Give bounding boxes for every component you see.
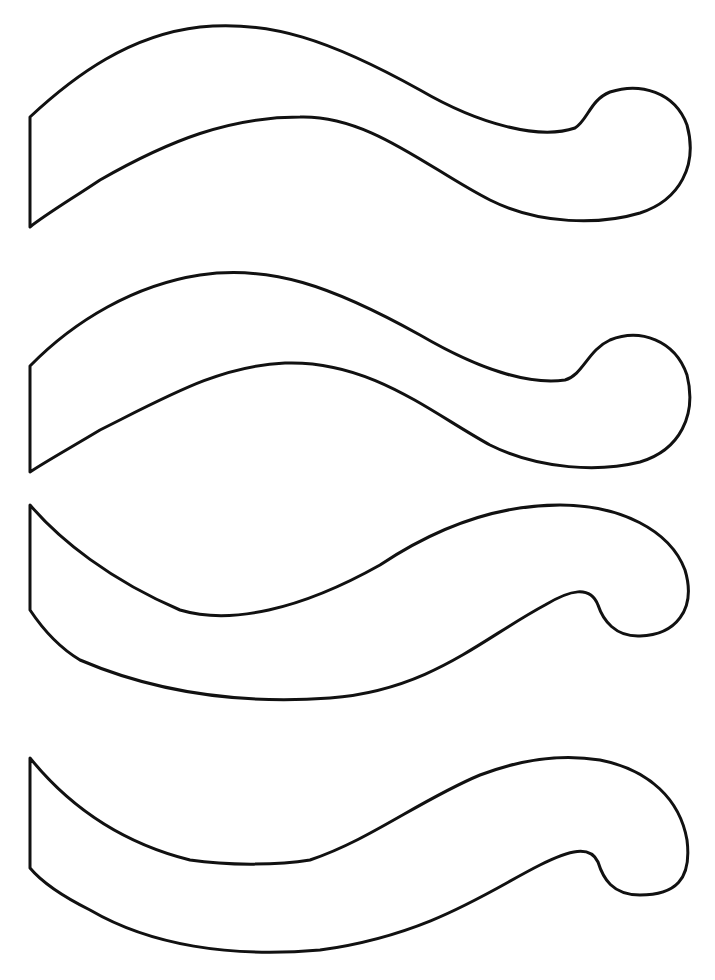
wave-shape-4 <box>30 757 688 952</box>
wave-shape-3 <box>30 505 688 700</box>
template-canvas <box>0 0 715 980</box>
wave-shape-2 <box>30 273 690 473</box>
wave-shape-1 <box>30 26 690 227</box>
